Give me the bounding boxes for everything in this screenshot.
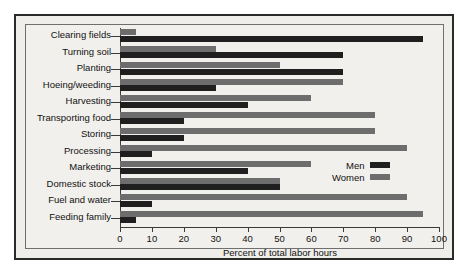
category-tick	[111, 135, 120, 136]
chart-row: Turning soil	[120, 45, 439, 62]
x-axis-tick	[248, 227, 249, 232]
category-label: Domestic stock	[47, 176, 111, 192]
bar-men	[120, 102, 248, 108]
chart-row: Domestic stock	[120, 177, 439, 194]
category-tick	[111, 53, 120, 54]
category-label: Clearing fields	[51, 27, 111, 43]
x-axis-tick-label: 80	[370, 233, 381, 244]
chart-row: Processing	[120, 144, 439, 161]
chart-row: Clearing fields	[120, 28, 439, 45]
category-tick	[111, 36, 120, 37]
category-tick	[111, 86, 120, 87]
category-label: Fuel and water	[48, 192, 111, 208]
x-axis-tick	[311, 227, 312, 232]
category-tick	[111, 119, 120, 120]
chart-legend: Men Women	[332, 159, 390, 183]
x-axis-tick-label: 100	[431, 233, 447, 244]
bar-women	[120, 128, 375, 134]
category-tick	[111, 185, 120, 186]
category-label: Transporting food	[37, 110, 111, 126]
x-axis-tick-label: 70	[338, 233, 349, 244]
category-tick	[111, 102, 120, 103]
category-label: Hoeing/weeding	[43, 77, 111, 93]
category-tick	[111, 69, 120, 70]
legend-swatch-women-icon	[370, 174, 390, 180]
category-label: Harvesting	[66, 93, 111, 109]
figure-frame: Clearing fieldsTurning soilPlantingHoein…	[14, 14, 454, 260]
chart-row: Feeding family	[120, 210, 439, 227]
chart-row: Fuel and water	[120, 193, 439, 210]
category-label: Processing	[64, 143, 111, 159]
x-axis-tick	[439, 227, 440, 232]
legend-swatch-men-icon	[370, 162, 390, 168]
category-tick	[111, 201, 120, 202]
chart-row: Harvesting	[120, 94, 439, 111]
bar-men	[120, 69, 343, 75]
bar-women	[120, 29, 136, 35]
category-label: Marketing	[69, 159, 111, 175]
chart-row: Planting	[120, 61, 439, 78]
x-axis-tick	[120, 227, 121, 232]
bar-men	[120, 52, 343, 58]
bar-women	[120, 79, 343, 85]
x-axis-tick-label: 40	[242, 233, 253, 244]
category-tick	[111, 168, 120, 169]
chart-figure: Clearing fieldsTurning soilPlantingHoein…	[0, 0, 472, 279]
x-axis-tick	[152, 227, 153, 232]
category-tick	[111, 152, 120, 153]
category-label: Storing	[81, 126, 111, 142]
chart-row: Storing	[120, 127, 439, 144]
bar-women	[120, 161, 311, 167]
bar-men	[120, 85, 216, 91]
legend-item-men: Men	[332, 159, 390, 171]
x-axis-tick	[375, 227, 376, 232]
x-axis-tick	[343, 227, 344, 232]
chart-row: Transporting food	[120, 111, 439, 128]
x-axis-tick-label: 60	[306, 233, 317, 244]
chart-row: Marketing	[120, 160, 439, 177]
bar-men	[120, 135, 184, 141]
x-axis-tick	[216, 227, 217, 232]
legend-label-men: Men	[346, 160, 364, 171]
x-axis-tick	[407, 227, 408, 232]
bar-men	[120, 151, 152, 157]
x-axis-tick	[280, 227, 281, 232]
bar-women	[120, 178, 280, 184]
x-axis-tick-label: 20	[179, 233, 190, 244]
bar-women	[120, 95, 311, 101]
bar-men	[120, 217, 136, 223]
bar-women	[120, 211, 423, 217]
bar-women	[120, 46, 216, 52]
bar-men	[120, 118, 184, 124]
x-axis-tick-label: 90	[402, 233, 413, 244]
x-axis-tick-label: 10	[147, 233, 158, 244]
bar-men	[120, 168, 248, 174]
x-axis-tick-label: 0	[117, 233, 122, 244]
bar-women	[120, 62, 280, 68]
x-axis-tick-label: 50	[274, 233, 285, 244]
bar-men	[120, 184, 280, 190]
category-label: Planting	[77, 60, 111, 76]
category-label: Turning soil	[62, 44, 111, 60]
category-label: Feeding family	[49, 209, 111, 225]
bar-men	[120, 201, 152, 207]
legend-label-women: Women	[332, 172, 365, 183]
plot-area: Clearing fieldsTurning soilPlantingHoein…	[120, 28, 439, 226]
chart-row: Hoeing/weeding	[120, 78, 439, 95]
x-axis-tick-label: 30	[210, 233, 221, 244]
x-axis-tick	[184, 227, 185, 232]
bar-men	[120, 36, 423, 42]
legend-item-women: Women	[332, 171, 390, 183]
category-tick	[111, 218, 120, 219]
bar-women	[120, 112, 375, 118]
bar-women	[120, 194, 407, 200]
bar-women	[120, 145, 407, 151]
x-axis-title: Percent of total labor hours	[120, 247, 440, 258]
